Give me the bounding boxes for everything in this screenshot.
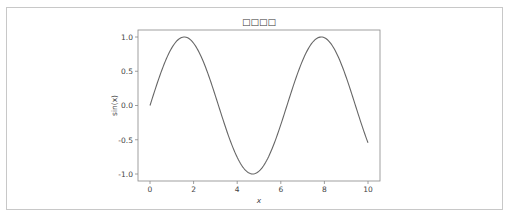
x-tick-label: 0: [148, 185, 153, 194]
y-tick-label: 1.0: [121, 33, 133, 42]
y-tick-label: 0.5: [121, 67, 133, 76]
y-tick-label: -1.0: [118, 170, 133, 179]
x-axis: 0246810: [148, 181, 373, 194]
y-tick-label: -0.5: [118, 136, 133, 145]
x-axis-label: x: [256, 196, 262, 205]
x-tick-label: 4: [235, 185, 240, 194]
plot-area: [138, 30, 380, 181]
chart-title: □□□□: [242, 17, 276, 27]
x-tick-label: 2: [191, 185, 196, 194]
line-chart: □□□□ 0246810 1.00.50.0-0.5-1.0 x sin(x): [0, 0, 509, 216]
sin-curve: [150, 37, 368, 174]
y-axis: 1.00.50.0-0.5-1.0: [118, 33, 138, 179]
x-tick-label: 6: [278, 185, 283, 194]
y-axis-label: sin(x): [110, 95, 119, 116]
x-tick-label: 10: [363, 185, 373, 194]
x-tick-label: 8: [322, 185, 327, 194]
y-tick-label: 0.0: [121, 101, 133, 110]
